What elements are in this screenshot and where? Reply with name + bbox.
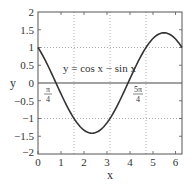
y-tick: 2 [29, 6, 35, 18]
y-tick: −0.5 [14, 95, 34, 107]
chart: 2 1.5 1 0.5 0 −0.5 −1 −1.5 −2 0 1 2 3 4 … [0, 0, 192, 186]
y-tick: −2 [22, 146, 34, 158]
x-tick: 6 [173, 156, 179, 168]
root1-denominator: 4 [46, 95, 50, 104]
x-tick: 5 [150, 156, 156, 168]
x-tick: 0 [35, 156, 41, 168]
y-tick: 0 [29, 77, 35, 89]
y-tick-labels: 2 1.5 1 0.5 0 −0.5 −1 −1.5 −2 [14, 6, 34, 158]
x-tick: 1 [58, 156, 64, 168]
y-tick: 0.5 [20, 59, 34, 71]
x-tick: 3 [104, 156, 110, 168]
equation-label: y = cos x − sin x [63, 62, 136, 74]
y-tick: −1.5 [14, 130, 34, 142]
root2-numerator: 5π [134, 85, 142, 94]
root-label-pi-over-4: π 4 [44, 85, 52, 104]
root1-numerator: π [46, 85, 50, 94]
y-tick: −1 [22, 112, 34, 124]
y-tick: 1 [29, 41, 35, 53]
root-label-5pi-over-4: 5π 4 [133, 85, 143, 104]
x-tick: 4 [127, 156, 133, 168]
x-tick: 2 [81, 156, 87, 168]
y-tick: 1.5 [20, 24, 34, 36]
x-tick-labels: 0 1 2 3 4 5 6 [35, 156, 179, 168]
root2-denominator: 4 [136, 95, 140, 104]
y-axis-label: y [10, 76, 16, 90]
x-axis-label: x [107, 168, 113, 182]
